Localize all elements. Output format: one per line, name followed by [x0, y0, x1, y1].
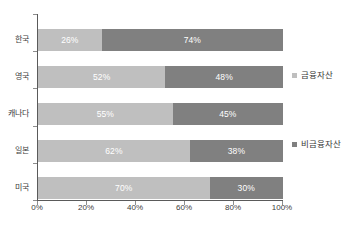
- bar-value-financial-4: 70%: [115, 184, 132, 193]
- bar-value-financial-0: 26%: [61, 36, 78, 45]
- bar-value-nonfinancial-1: 48%: [216, 73, 233, 82]
- x-axis-tick-label-2: 40%: [127, 204, 143, 212]
- bar-segment-nonfinancial-3: 38%: [190, 140, 283, 162]
- y-axis-tick-3: [33, 126, 37, 127]
- plot-area: 26% 74% 52% 48% 55% 45%: [37, 14, 283, 200]
- bar-segment-nonfinancial-2: 45%: [173, 103, 283, 125]
- legend-swatch-icon-financial: [292, 73, 297, 78]
- bar-segment-nonfinancial-1: 48%: [165, 66, 283, 88]
- bar-value-nonfinancial-4: 30%: [238, 184, 255, 193]
- bar-row-4: 70% 30%: [38, 177, 283, 199]
- bar-segment-financial-2: 55%: [38, 103, 173, 125]
- bar-row-1: 52% 48%: [38, 66, 283, 88]
- y-axis-tick-1: [33, 51, 37, 52]
- bar-segment-financial-1: 52%: [38, 66, 165, 88]
- bar-segment-financial-3: 62%: [38, 140, 190, 162]
- legend-label-nonfinancial: 비금융자산: [301, 140, 341, 149]
- y-axis-tick-0: [33, 14, 37, 15]
- bar-segment-financial-4: 70%: [38, 177, 210, 199]
- chart-legend: 금융자산 비금융자산: [292, 14, 363, 200]
- x-axis-tick-label-3: 60%: [176, 204, 192, 212]
- legend-label-financial: 금융자산: [301, 71, 333, 80]
- x-axis-tick-label-4: 80%: [225, 204, 241, 212]
- y-axis-label-4: 미국: [0, 184, 33, 192]
- bar-row-3: 62% 38%: [38, 140, 283, 162]
- x-axis-tick-labels: 0% 20% 40% 60% 80% 100%: [37, 204, 283, 218]
- x-axis-line: [37, 200, 283, 201]
- bar-value-financial-3: 62%: [105, 147, 122, 156]
- y-axis-label-3: 일본: [0, 147, 33, 155]
- x-axis-tick-label-1: 20%: [78, 204, 94, 212]
- legend-swatch-icon-nonfinancial: [292, 142, 297, 147]
- bar-row-2: 55% 45%: [38, 103, 283, 125]
- stacked-bar-chart: 한국 영국 캐나다 일본 미국 26% 74%: [0, 0, 363, 229]
- bar-value-financial-2: 55%: [97, 110, 114, 119]
- y-axis-label-2: 캐나다: [0, 110, 33, 118]
- bar-value-nonfinancial-3: 38%: [228, 147, 245, 156]
- y-axis-category-labels: 한국 영국 캐나다 일본 미국: [0, 14, 33, 200]
- bar-value-nonfinancial-2: 45%: [219, 110, 236, 119]
- bar-row-0: 26% 74%: [38, 29, 283, 51]
- bar-segment-financial-0: 26%: [38, 29, 102, 51]
- bar-rows: 26% 74% 52% 48% 55% 45%: [38, 14, 283, 200]
- legend-item-nonfinancial: 비금융자산: [292, 140, 341, 149]
- x-axis-tick-label-5: 100%: [272, 204, 292, 212]
- legend-item-financial: 금융자산: [292, 71, 333, 80]
- y-axis-tick-4: [33, 163, 37, 164]
- x-axis-tick-label-0: 0%: [31, 204, 43, 212]
- bar-value-financial-1: 52%: [93, 73, 110, 82]
- bar-segment-nonfinancial-0: 74%: [102, 29, 283, 51]
- bar-segment-nonfinancial-4: 30%: [210, 177, 284, 199]
- y-axis-tick-2: [33, 88, 37, 89]
- bar-value-nonfinancial-0: 74%: [184, 36, 201, 45]
- y-axis-label-0: 한국: [0, 36, 33, 44]
- y-axis-label-1: 영국: [0, 73, 33, 81]
